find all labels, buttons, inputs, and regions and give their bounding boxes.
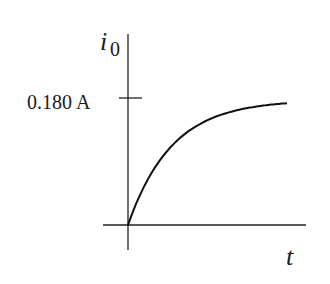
chart: i 0 0.180 A t [0,0,330,284]
y-axis-label-subscript: 0 [110,38,120,60]
x-axis-label: t [286,242,294,271]
current-curve [128,103,287,225]
y-tick-label: 0.180 A [27,91,91,113]
y-axis-label: i [100,27,107,56]
